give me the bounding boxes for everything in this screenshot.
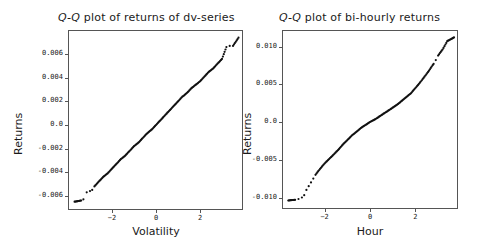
x-tick-label: −2: [315, 213, 335, 221]
x-tick-mark: [370, 209, 371, 212]
y-tick-mark: [279, 198, 282, 199]
x-tick-label: 2: [405, 213, 425, 221]
y-tick-label: -0.005: [237, 155, 277, 163]
y-tick-mark: [279, 47, 282, 48]
y-tick-label: 0.005: [237, 79, 277, 87]
x-tick-label: 0: [360, 213, 380, 221]
y-tick-label: -0.010: [237, 193, 277, 201]
y-axis-label-right: Returns: [241, 113, 254, 155]
y-tick-mark: [279, 84, 282, 85]
x-tick-mark: [415, 209, 416, 212]
y-tick-label: 0.010: [237, 42, 277, 50]
x-tick-mark: [325, 209, 326, 212]
x-axis-label-right: Hour: [330, 225, 410, 238]
y-tick-mark: [279, 122, 282, 123]
y-tick-mark: [279, 160, 282, 161]
